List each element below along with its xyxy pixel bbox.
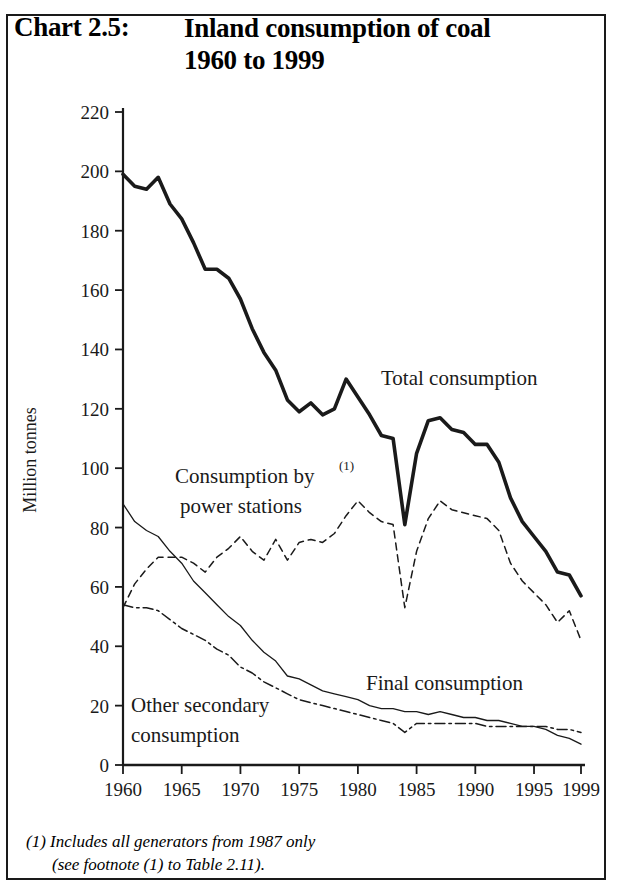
- y-tick-label-180: 180: [81, 221, 110, 242]
- series-line-consumption-by-power-stations: [123, 501, 581, 641]
- series-label-total-consumption: Total consumption: [381, 366, 538, 390]
- x-tick-label-1999: 1999: [562, 779, 600, 800]
- series-label-other-secondary-2: consumption: [131, 723, 240, 747]
- series-label-power-superscript: (1): [339, 458, 354, 473]
- footnote-line-1: (1) Includes all generators from 1987 on…: [26, 832, 315, 851]
- series-label-power-stations-1: Consumption by: [175, 464, 315, 488]
- x-tick-label-1970: 1970: [221, 779, 259, 800]
- series-label-power-stations-2: power stations: [180, 494, 302, 518]
- series-label-other-secondary-1: Other secondary: [131, 693, 270, 717]
- series-label-final-consumption: Final consumption: [366, 671, 523, 695]
- x-tick-label-1985: 1985: [398, 779, 436, 800]
- y-tick-label-160: 160: [81, 280, 110, 301]
- x-tick-label-1980: 1980: [339, 779, 377, 800]
- y-tick-label-80: 80: [90, 518, 109, 539]
- x-tick-label-1960: 1960: [104, 779, 142, 800]
- x-tick-label-1975: 1975: [280, 779, 318, 800]
- chart-footnote: (1) Includes all generators from 1987 on…: [26, 830, 546, 876]
- x-tick-label-1965: 1965: [163, 779, 201, 800]
- y-axis-title: Million tonnes: [20, 407, 40, 513]
- footnote-line-2: (see footnote (1) to Table 2.11).: [26, 853, 546, 876]
- chart-plot-area: 0204060801001201401601802002201960196519…: [0, 0, 618, 895]
- y-tick-label-20: 20: [90, 696, 109, 717]
- y-tick-label-220: 220: [81, 102, 110, 123]
- y-tick-label-200: 200: [81, 161, 110, 182]
- y-tick-label-60: 60: [90, 577, 109, 598]
- y-tick-label-0: 0: [100, 755, 110, 776]
- line-chart: 0204060801001201401601802002201960196519…: [0, 0, 618, 895]
- y-tick-label-100: 100: [81, 458, 110, 479]
- y-tick-label-140: 140: [81, 339, 110, 360]
- y-tick-label-40: 40: [90, 636, 109, 657]
- x-tick-label-1990: 1990: [456, 779, 494, 800]
- y-tick-label-120: 120: [81, 399, 110, 420]
- x-tick-label-1995: 1995: [515, 779, 553, 800]
